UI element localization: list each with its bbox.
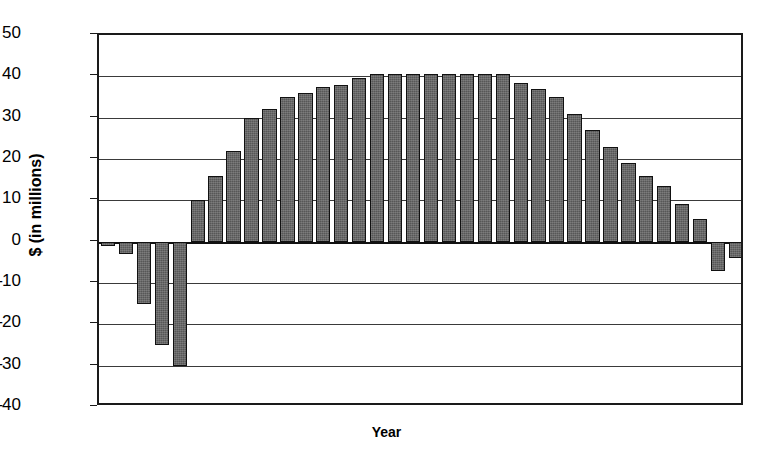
y-tick-label-0: 0 — [0, 231, 21, 248]
y-tick-mark-0 — [90, 240, 97, 241]
bar — [388, 74, 402, 241]
bar — [155, 242, 169, 345]
bar — [657, 186, 671, 242]
bar — [567, 114, 581, 242]
bar — [191, 200, 205, 241]
bar — [478, 74, 492, 241]
bar — [514, 83, 528, 242]
bar — [334, 85, 348, 242]
y-tick-mark--30 — [90, 364, 97, 365]
bar — [208, 176, 222, 242]
bar — [119, 242, 133, 254]
bar — [460, 74, 474, 241]
bar — [262, 109, 276, 241]
y-tick-mark-30 — [90, 116, 97, 117]
bar — [316, 87, 330, 242]
y-tick-label-50: 50 — [0, 24, 21, 41]
bar — [244, 118, 258, 242]
bar — [693, 219, 707, 242]
x-axis-label: Year — [0, 424, 773, 440]
y-tick-mark-20 — [90, 157, 97, 158]
y-tick-mark-40 — [90, 74, 97, 75]
y-tick-mark--10 — [90, 281, 97, 282]
y-tick-label-10: 10 — [0, 189, 21, 206]
bar — [531, 89, 545, 242]
bar — [442, 74, 456, 241]
y-tick-mark--40 — [90, 405, 97, 406]
y-tick-label--30: –30 — [0, 355, 21, 372]
y-tick-label-40: 40 — [0, 65, 21, 82]
bar — [621, 163, 635, 242]
y-tick-mark-50 — [90, 33, 97, 34]
bar — [298, 93, 312, 242]
bar — [549, 97, 563, 242]
bar — [675, 204, 689, 241]
bar-series — [99, 35, 741, 403]
y-axis-label: $ (in millions) — [27, 85, 45, 325]
bar — [226, 151, 240, 242]
bar — [603, 147, 617, 242]
bar — [729, 242, 743, 259]
bar — [137, 242, 151, 304]
plot-area — [97, 33, 743, 405]
bar — [370, 74, 384, 241]
bar — [496, 74, 510, 241]
bar — [639, 176, 653, 242]
bar-chart-figure: $ (in millions) 50403020100–10–20–30–40 … — [0, 0, 773, 466]
bar — [101, 242, 115, 246]
bar — [711, 242, 725, 271]
y-tick-label--20: –20 — [0, 313, 21, 330]
bar — [424, 74, 438, 241]
y-tick-mark-10 — [90, 198, 97, 199]
bar — [280, 97, 294, 242]
y-tick-label-30: 30 — [0, 107, 21, 124]
bar — [173, 242, 187, 366]
y-tick-label--40: –40 — [0, 396, 21, 413]
y-tick-label--10: –10 — [0, 272, 21, 289]
bar — [585, 130, 599, 242]
y-tick-mark--20 — [90, 322, 97, 323]
bar — [352, 78, 366, 241]
y-tick-label-20: 20 — [0, 148, 21, 165]
bar — [406, 74, 420, 241]
